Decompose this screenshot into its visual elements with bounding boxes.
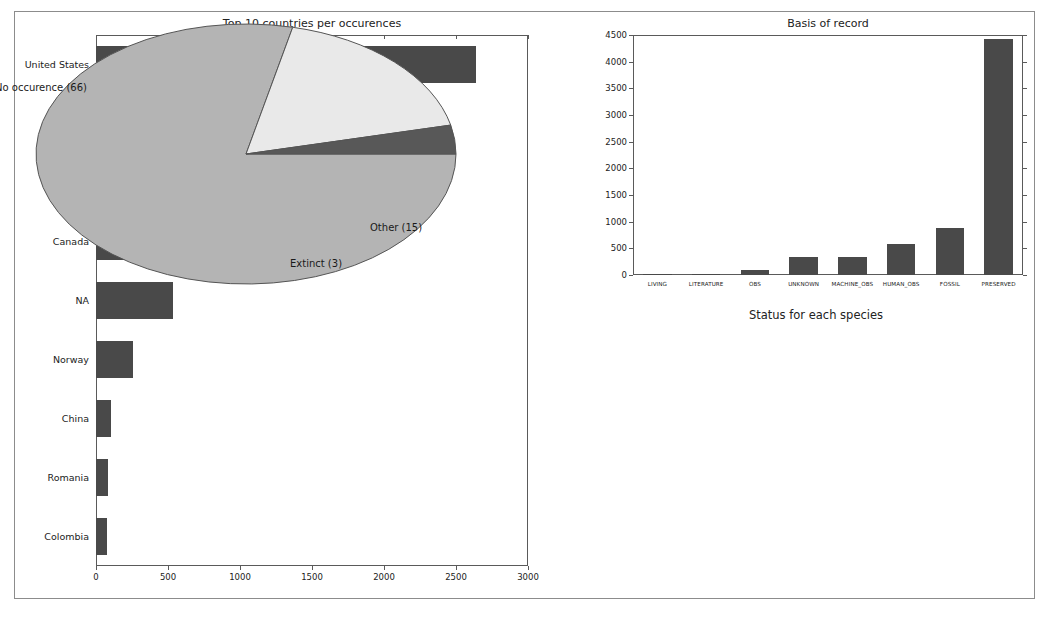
axes-basis-of-record xyxy=(633,35,1023,275)
ylabel-norway: Norway xyxy=(4,354,89,365)
ytick-mark-right xyxy=(1023,168,1027,169)
yticklabel: 3500 xyxy=(589,83,627,93)
ylabel-romania: Romania xyxy=(4,472,89,483)
ytick-mark-right xyxy=(1023,142,1027,143)
ytick-mark xyxy=(629,115,633,116)
ytick-mark xyxy=(629,168,633,169)
bar-literature xyxy=(692,274,720,275)
xtick-mark xyxy=(168,566,169,570)
ytick-mark xyxy=(629,88,633,89)
ytick-mark xyxy=(629,275,633,276)
panel-status-pie: Status for each species No occurence (66… xyxy=(0,0,460,298)
yticklabel: 3000 xyxy=(589,110,627,120)
xticklabel: 0 xyxy=(74,572,118,582)
ytick-mark-right xyxy=(1023,275,1027,276)
ytick-mark-right xyxy=(1023,248,1027,249)
bar-unknown xyxy=(789,257,817,275)
ytick-mark-right xyxy=(1023,222,1027,223)
xtick-mark xyxy=(240,566,241,570)
bar-norway xyxy=(96,341,133,378)
bar-human_obs xyxy=(887,244,915,275)
bar-living xyxy=(643,274,671,275)
ytick-mark-right xyxy=(1023,62,1027,63)
pie-label-extinct: Extinct (3) xyxy=(290,258,342,269)
yticklabel: 2500 xyxy=(589,137,627,147)
yticklabel: 1000 xyxy=(589,217,627,227)
ylabel-colombia: Colombia xyxy=(4,531,89,542)
ytick-mark xyxy=(629,62,633,63)
bar-obs xyxy=(741,270,769,275)
ytick-mark xyxy=(629,35,633,36)
xtick-mark xyxy=(96,566,97,570)
yticklabel: 2000 xyxy=(589,163,627,173)
bar-preserved xyxy=(984,39,1012,275)
ytick-mark xyxy=(629,248,633,249)
xtick-mark xyxy=(312,566,313,570)
bar-romania xyxy=(96,459,108,496)
pie-label-no: No occurence (66) xyxy=(0,82,87,93)
xlabel-fossil: FOSSIL xyxy=(926,281,975,287)
pie-label-other: Other (15) xyxy=(370,222,422,233)
bar-fossil xyxy=(936,228,964,275)
pie-chart xyxy=(0,0,460,298)
bar-machine_obs xyxy=(838,257,866,275)
xlabel-preserved: PRESERVED xyxy=(974,281,1023,287)
ylabel-china: China xyxy=(4,413,89,424)
xlabel-unknown: UNKNOWN xyxy=(779,281,828,287)
xticklabel: 1500 xyxy=(290,572,334,582)
xticklabel: 500 xyxy=(146,572,190,582)
xticklabel: 2500 xyxy=(434,572,478,582)
xtick-mark xyxy=(384,566,385,570)
ytick-mark xyxy=(629,142,633,143)
chart-title-pie: Status for each species xyxy=(586,308,1046,322)
xlabel-machine_obs: MACHINE_OBS xyxy=(828,281,877,287)
xtick-mark xyxy=(528,566,529,570)
ytick-mark xyxy=(629,195,633,196)
xticklabel: 1000 xyxy=(218,572,262,582)
bar-china xyxy=(96,400,111,437)
ytick-mark xyxy=(629,222,633,223)
yticklabel: 4500 xyxy=(589,30,627,40)
xticklabel: 2000 xyxy=(362,572,406,582)
ytick-mark-right xyxy=(1023,195,1027,196)
yticklabel: 0 xyxy=(589,270,627,280)
bar-colombia xyxy=(96,518,107,555)
yticklabel: 4000 xyxy=(589,57,627,67)
xlabel-literature: LITERATURE xyxy=(682,281,731,287)
ytick-mark-right xyxy=(1023,88,1027,89)
axes-status-pie: No occurence (66)Other (15)Extinct (3) xyxy=(0,0,460,298)
xtick-mark-top xyxy=(528,35,529,39)
matplotlib-figure: Top 10 countries per occurences United S… xyxy=(0,0,1050,618)
ytick-mark-right xyxy=(1023,35,1027,36)
xlabel-obs: OBS xyxy=(731,281,780,287)
xtick-mark xyxy=(456,566,457,570)
yticklabel: 500 xyxy=(589,243,627,253)
chart-title-basis: Basis of record xyxy=(633,17,1023,30)
xlabel-human_obs: HUMAN_OBS xyxy=(877,281,926,287)
xlabel-living: LIVING xyxy=(633,281,682,287)
yticklabel: 1500 xyxy=(589,190,627,200)
pie-svg xyxy=(0,0,460,298)
xticklabel: 3000 xyxy=(506,572,550,582)
ytick-mark-right xyxy=(1023,115,1027,116)
